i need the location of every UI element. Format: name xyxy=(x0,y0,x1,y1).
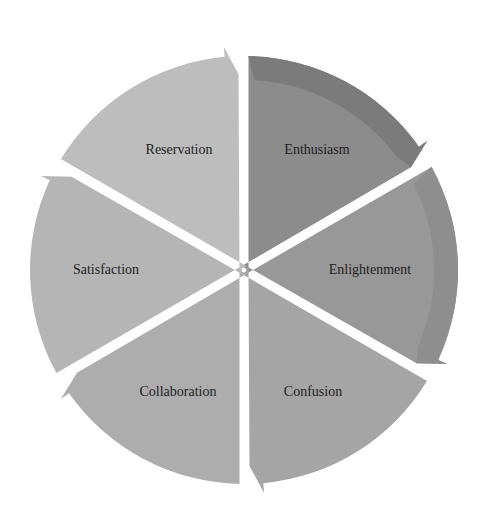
segment-label-enlightenment: Enlightenment xyxy=(329,262,412,277)
segment-label-confusion: Confusion xyxy=(284,384,342,399)
cycle-diagram: Enthusiasm Enlightenment Confusion Colla… xyxy=(0,0,488,532)
segment-label-enthusiasm: Enthusiasm xyxy=(284,142,349,157)
segment-label-collaboration: Collaboration xyxy=(140,384,217,399)
segment-label-reservation: Reservation xyxy=(146,142,213,157)
segment-label-satisfaction: Satisfaction xyxy=(73,262,139,277)
